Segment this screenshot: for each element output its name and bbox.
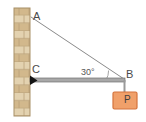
beam-body: [30, 78, 125, 82]
beam-c-b: [30, 78, 125, 82]
label-point-c: C: [32, 64, 40, 75]
brick-wall-body: [14, 8, 30, 116]
label-point-b: B: [126, 69, 133, 80]
label-load-p: P: [124, 95, 131, 105]
brick-wall: [14, 8, 30, 116]
pin-support-icon: [30, 76, 38, 86]
mechanics-diagram-figure: A B C 30° P: [0, 0, 146, 122]
cable-a-b: [31, 17, 124, 79]
label-point-a: A: [33, 11, 40, 22]
label-angle-30deg: 30°: [81, 68, 95, 77]
